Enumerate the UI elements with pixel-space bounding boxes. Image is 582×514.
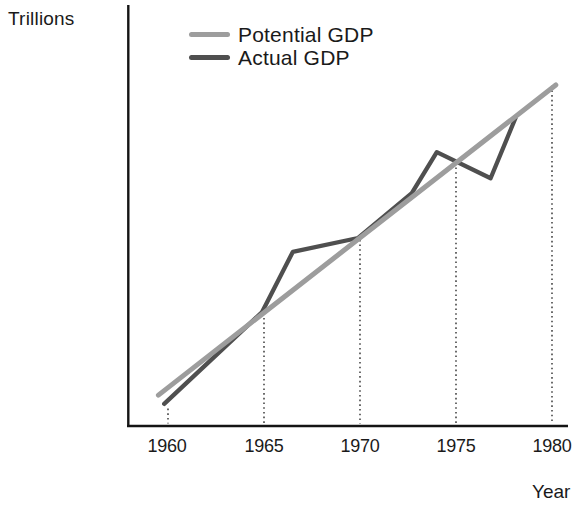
x-tick-1970: 1970 [340, 436, 379, 457]
x-tick-1980: 1980 [532, 436, 571, 457]
x-tick-1975: 1975 [436, 436, 475, 457]
plot-area [0, 0, 582, 514]
x-axis-label: Year [532, 481, 570, 503]
legend-label-potential-gdp: Potential GDP [238, 23, 374, 47]
legend-item-actual-gdp: Actual GDP [189, 46, 374, 69]
legend-item-potential-gdp: Potential GDP [189, 23, 374, 46]
x-tick-1965: 1965 [244, 436, 283, 457]
legend-label-actual-gdp: Actual GDP [238, 46, 350, 70]
legend: Potential GDP Actual GDP [189, 23, 374, 69]
year-guide-lines [168, 86, 552, 424]
x-tick-1960: 1960 [147, 436, 186, 457]
potential-gdp-swatch-icon [189, 32, 230, 37]
gdp-chart: Trillions Potential GDP Actual GDP 1960 … [0, 0, 582, 514]
potential-gdp-line [158, 85, 555, 395]
actual-gdp-line [164, 118, 515, 404]
actual-gdp-swatch-icon [189, 55, 230, 60]
y-axis-label: Trillions [8, 8, 75, 30]
gdp-lines [158, 85, 555, 404]
